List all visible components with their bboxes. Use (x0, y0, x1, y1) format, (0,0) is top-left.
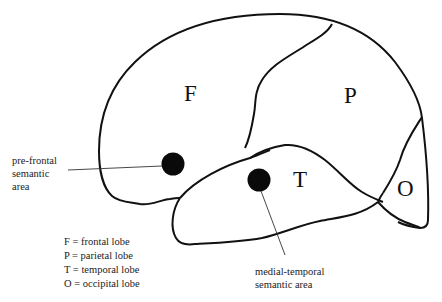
lobe-legend: F = frontal lobe P = parietal lobe T = t… (64, 235, 140, 291)
label-line: pre-frontal (12, 154, 57, 167)
legend-item: P = parietal lobe (64, 249, 140, 263)
legend-item: F = frontal lobe (64, 235, 140, 249)
prefrontal-leader-line (68, 166, 162, 170)
medial-temporal-semantic-area-label: medial-temporal semantic area (255, 265, 324, 291)
medial-temporal-leader-line (261, 191, 285, 255)
temporal-upper-outline (250, 145, 383, 202)
legend-item: O = occipital lobe (64, 277, 140, 291)
prefrontal-semantic-marker (162, 153, 185, 176)
label-line: area (12, 180, 57, 193)
prefrontal-semantic-area-label: pre-frontal semantic area (12, 154, 57, 193)
central-sulcus (245, 24, 332, 148)
occipital-lower-outline (378, 202, 420, 228)
lobe-label-temporal: T (293, 168, 307, 191)
lobe-label-occipital: O (397, 177, 414, 200)
label-line: medial-temporal (255, 265, 324, 278)
legend-item: T = temporal lobe (64, 263, 140, 277)
medial-temporal-semantic-marker (248, 169, 271, 192)
label-line: semantic (12, 167, 57, 180)
lobe-label-parietal: P (344, 84, 357, 107)
lobe-label-frontal: F (184, 82, 197, 105)
temporal-lower-outline (173, 198, 378, 244)
label-line: semantic area (255, 278, 324, 291)
brain-outer-outline (99, 14, 428, 228)
